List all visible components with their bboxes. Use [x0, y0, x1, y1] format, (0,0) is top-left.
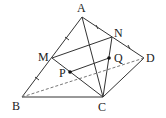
segment-NC: [103, 37, 112, 97]
label-A: A: [77, 2, 86, 14]
label-C: C: [98, 101, 106, 113]
edge-AB: [22, 17, 82, 97]
segment-PQ: [70, 58, 109, 72]
label-M: M: [38, 51, 49, 63]
point-Q-dot: [107, 56, 111, 60]
point-P-dot: [68, 70, 72, 74]
tetrahedron-diagram: [0, 0, 166, 118]
segment-MN: [52, 37, 112, 58]
label-D: D: [146, 52, 155, 64]
label-B: B: [12, 100, 20, 112]
label-Q: Q: [114, 52, 123, 64]
edge-CD: [103, 58, 144, 97]
label-N: N: [114, 27, 123, 39]
label-P: P: [59, 67, 66, 79]
